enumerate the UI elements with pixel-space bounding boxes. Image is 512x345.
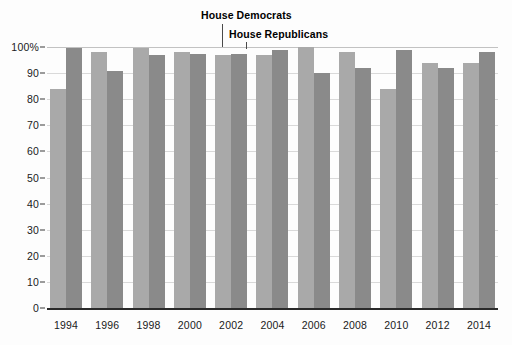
bar-democrats-2012 — [422, 63, 438, 308]
bar-republicans-1998 — [149, 55, 165, 308]
bar-republicans-2000 — [190, 54, 206, 308]
y-axis: 0102030405060708090100% — [0, 0, 47, 345]
y-axis-tick-label: 90 — [27, 67, 39, 79]
bar-democrats-2014 — [463, 63, 479, 308]
y-axis-tick-mark — [40, 229, 45, 230]
bar-group — [463, 47, 495, 308]
y-axis-tick-label: 20 — [27, 250, 39, 262]
bar-republicans-2004 — [272, 50, 288, 308]
bar-republicans-2012 — [438, 68, 454, 308]
x-axis-tick-label: 2012 — [422, 310, 454, 340]
x-axis-tick-label: 2004 — [256, 310, 288, 340]
bar-group — [380, 47, 412, 308]
bar-chart: 0102030405060708090100% 1994199619982000… — [0, 0, 512, 345]
bar-democrats-2004 — [256, 55, 272, 308]
x-axis-tick-label: 2002 — [215, 310, 247, 340]
y-axis-tick-label: 70 — [27, 119, 39, 131]
bar-group — [91, 47, 123, 308]
y-axis-tick-label: 80 — [27, 93, 39, 105]
y-axis-tick-mark — [40, 177, 45, 178]
bar-republicans-1994 — [66, 48, 82, 308]
bar-democrats-2002 — [215, 55, 231, 308]
x-axis-tick-label: 2000 — [174, 310, 206, 340]
bar-republicans-2008 — [355, 68, 371, 308]
y-axis-tick-mark — [40, 203, 45, 204]
x-axis-tick-label: 2010 — [380, 310, 412, 340]
plot-area — [47, 47, 498, 308]
bar-democrats-2008 — [339, 52, 355, 308]
bar-group — [256, 47, 288, 308]
y-axis-tick-mark — [40, 125, 45, 126]
bar-democrats-1994 — [50, 89, 66, 308]
x-axis-tick-label: 2014 — [463, 310, 495, 340]
x-axis-tick-label: 1994 — [50, 310, 82, 340]
bar-group — [50, 47, 82, 308]
bar-group — [133, 47, 165, 308]
bar-democrats-2006 — [298, 47, 314, 308]
bar-republicans-1996 — [107, 71, 123, 309]
bar-democrats-1998 — [133, 48, 149, 308]
y-axis-tick-label: 100% — [11, 41, 39, 53]
leader-line-republicans — [246, 42, 247, 49]
y-axis-tick-mark — [40, 73, 45, 74]
bar-republicans-2014 — [479, 52, 495, 308]
leader-line-democrats — [222, 24, 223, 47]
bar-republicans-2006 — [314, 73, 330, 308]
y-axis-tick-mark — [40, 255, 45, 256]
bar-republicans-2010 — [396, 50, 412, 308]
bar-republicans-2002 — [231, 54, 247, 308]
bar-group — [174, 47, 206, 308]
annotation-house-democrats: House Democrats — [201, 9, 292, 21]
y-axis-tick-mark — [40, 47, 45, 48]
y-axis-tick-mark — [40, 99, 45, 100]
x-axis-tick-label: 2008 — [339, 310, 371, 340]
y-axis-tick-mark — [40, 308, 45, 309]
y-axis-tick-label: 50 — [27, 172, 39, 184]
y-axis-tick-label: 30 — [27, 224, 39, 236]
y-axis-tick-label: 60 — [27, 145, 39, 157]
bar-group — [339, 47, 371, 308]
bar-group — [422, 47, 454, 308]
y-axis-tick-mark — [40, 281, 45, 282]
y-axis-tick-label: 40 — [27, 198, 39, 210]
bar-group — [215, 47, 247, 308]
annotation-house-republicans: House Republicans — [229, 28, 328, 40]
bar-groups — [47, 47, 498, 308]
x-axis: 1994199619982000200220042006200820102012… — [47, 310, 498, 340]
y-axis-tick-mark — [40, 151, 45, 152]
bar-group — [298, 47, 330, 308]
y-axis-tick-label: 0 — [33, 302, 39, 314]
x-axis-tick-label: 2006 — [298, 310, 330, 340]
bar-democrats-2010 — [380, 89, 396, 308]
x-axis-tick-label: 1996 — [91, 310, 123, 340]
y-axis-tick-label: 10 — [27, 276, 39, 288]
x-axis-tick-label: 1998 — [133, 310, 165, 340]
bar-democrats-1996 — [91, 52, 107, 308]
bar-democrats-2000 — [174, 52, 190, 308]
